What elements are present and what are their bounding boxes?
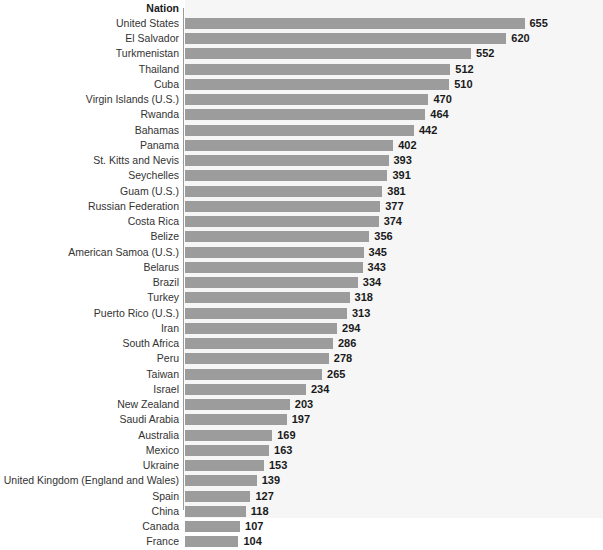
category-label: France	[146, 534, 179, 549]
bar	[185, 536, 239, 547]
bar	[185, 186, 383, 197]
bar-value-label: 163	[274, 443, 292, 458]
category-label: Mexico	[146, 443, 179, 458]
category-label: Ukraine	[143, 458, 179, 473]
bar-row: Virgin Islands (U.S.)470	[0, 92, 603, 107]
bar	[185, 292, 350, 303]
category-label: Belarus	[143, 260, 179, 275]
bar	[185, 262, 363, 273]
category-label: El Salvador	[125, 31, 179, 46]
bar-row: Costa Rica374	[0, 214, 603, 229]
column-header-row: Nation	[0, 1, 603, 16]
category-label: Rwanda	[140, 107, 179, 122]
bar-value-label: 318	[355, 290, 373, 305]
bar-row: Guam (U.S.)381	[0, 184, 603, 199]
category-label: Bahamas	[135, 123, 179, 138]
bar-value-label: 377	[385, 199, 403, 214]
category-label: Panama	[140, 138, 179, 153]
bar-value-label: 464	[430, 107, 448, 122]
bar-value-label: 393	[394, 153, 412, 168]
category-label: Cuba	[154, 77, 179, 92]
bar	[185, 140, 394, 151]
bar	[185, 369, 323, 380]
category-label: New Zealand	[117, 397, 179, 412]
bar-value-label: 234	[311, 382, 329, 397]
bar	[185, 79, 450, 90]
bar-value-label: 356	[374, 229, 392, 244]
bar	[185, 414, 287, 425]
category-label: Guam (U.S.)	[120, 184, 179, 199]
bar-row: United Kingdom (England and Wales)139	[0, 473, 603, 488]
category-label: Turkmenistan	[116, 46, 179, 61]
bar-row: Saudi Arabia197	[0, 412, 603, 427]
bar-row: France104	[0, 534, 603, 549]
bar-row: Turkey318	[0, 290, 603, 305]
category-label: Iran	[161, 321, 179, 336]
bar-row: Belize356	[0, 229, 603, 244]
bar	[185, 247, 364, 258]
bar-value-label: 391	[392, 168, 410, 183]
bar	[185, 445, 270, 456]
bar-row: Taiwan265	[0, 367, 603, 382]
category-label: St. Kitts and Nevis	[93, 153, 179, 168]
bar-value-label: 334	[363, 275, 381, 290]
bar-value-label: 118	[251, 504, 269, 519]
bar	[185, 109, 426, 120]
bar-row: New Zealand203	[0, 397, 603, 412]
bar-value-label: 374	[384, 214, 402, 229]
category-label: Spain	[152, 489, 179, 504]
bar-value-label: 620	[511, 31, 529, 46]
column-header-label: Nation	[146, 1, 179, 16]
bar-row: Panama402	[0, 138, 603, 153]
bar-row: Russian Federation377	[0, 199, 603, 214]
bar	[185, 338, 333, 349]
bar-value-label: 104	[243, 534, 261, 549]
category-label: South Africa	[122, 336, 179, 351]
category-label: United States	[116, 16, 179, 31]
bar-value-label: 169	[277, 428, 295, 443]
bar-value-label: 286	[338, 336, 356, 351]
category-label: American Samoa (U.S.)	[68, 245, 179, 260]
bar-row: Turkmenistan552	[0, 46, 603, 61]
bar-row: Puerto Rico (U.S.)313	[0, 306, 603, 321]
bar-row: Seychelles391	[0, 168, 603, 183]
category-label: Israel	[153, 382, 179, 397]
bar-value-label: 345	[369, 245, 387, 260]
bar	[185, 384, 306, 395]
bar-row: China118	[0, 504, 603, 519]
bar	[185, 155, 389, 166]
bar	[185, 475, 257, 486]
bar-row: Belarus343	[0, 260, 603, 275]
bar	[185, 323, 338, 334]
bar	[185, 64, 451, 75]
bar	[185, 201, 381, 212]
bar	[185, 506, 246, 517]
category-label: Australia	[138, 428, 179, 443]
bar-value-label: 343	[368, 260, 386, 275]
category-label: Belize	[150, 229, 179, 244]
bar-value-label: 313	[352, 306, 370, 321]
bar	[185, 231, 370, 242]
bar-row: Israel234	[0, 382, 603, 397]
bar-row: Cuba510	[0, 77, 603, 92]
bar-row: American Samoa (U.S.)345	[0, 245, 603, 260]
bar-row: Iran294	[0, 321, 603, 336]
bar-row: Mexico163	[0, 443, 603, 458]
bar-row: St. Kitts and Nevis393	[0, 153, 603, 168]
bar	[185, 216, 379, 227]
bar	[185, 48, 472, 59]
bar	[185, 491, 251, 502]
category-label: Saudi Arabia	[119, 412, 179, 427]
bar-row: Brazil334	[0, 275, 603, 290]
bar	[185, 308, 347, 319]
bar-value-label: 655	[530, 16, 548, 31]
category-label: Turkey	[147, 290, 179, 305]
bar-value-label: 139	[262, 473, 280, 488]
bar-row: Canada107	[0, 519, 603, 534]
category-label: Taiwan	[146, 367, 179, 382]
bar-row: Spain127	[0, 489, 603, 504]
bar-row: Thailand512	[0, 62, 603, 77]
bar-value-label: 294	[342, 321, 360, 336]
